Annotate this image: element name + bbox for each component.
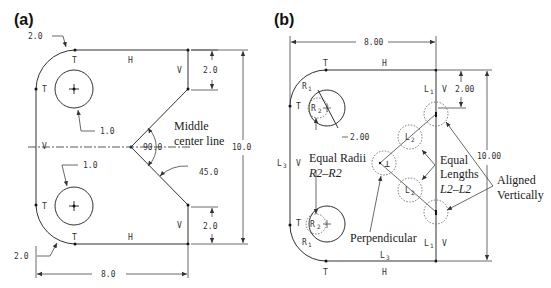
diagram-canvas: (a) T H	[0, 0, 551, 288]
svg-text:V: V	[442, 239, 447, 248]
svg-text:center line: center line	[174, 134, 224, 148]
svg-text:3: 3	[283, 162, 287, 169]
svg-text:Equal: Equal	[440, 153, 469, 167]
svg-text:L: L	[424, 85, 429, 94]
panel-a-lower-angle-dim: 45.0	[160, 166, 218, 177]
svg-text:L: L	[424, 239, 429, 248]
panel-b-label: (b)	[274, 11, 294, 28]
svg-text:Perpendicular: Perpendicular	[350, 231, 417, 245]
svg-text:T: T	[72, 233, 77, 242]
svg-text:2: 2	[317, 223, 321, 230]
svg-text:L: L	[380, 251, 385, 260]
panel-a-bottom-hole-dim: 1.0	[62, 161, 98, 186]
svg-text:2.0: 2.0	[203, 222, 218, 231]
svg-text:Vertically: Vertically	[497, 188, 544, 202]
svg-text:2: 2	[318, 107, 322, 114]
panel-a-top-offset-dim: 2.0	[191, 50, 218, 90]
svg-text:Equal Radii: Equal Radii	[309, 151, 367, 165]
svg-text:R: R	[310, 220, 315, 229]
svg-text:V: V	[442, 85, 447, 94]
panel-b-top-circles: R 2	[308, 90, 345, 128]
panel-b-right-chain: L 2 L 2 ⊥	[372, 102, 448, 224]
svg-text:90.0: 90.0	[143, 143, 162, 152]
svg-text:1: 1	[308, 85, 312, 92]
svg-text:3: 3	[386, 254, 390, 261]
svg-text:V: V	[42, 142, 47, 151]
svg-text:H: H	[382, 268, 387, 277]
svg-text:T: T	[72, 56, 77, 65]
svg-text:H: H	[128, 233, 133, 242]
panel-b: (b) R 2 R 2	[274, 11, 544, 277]
svg-text:V: V	[177, 221, 182, 230]
panel-b-circle-dim: 2.00	[342, 133, 369, 142]
svg-text:T: T	[323, 268, 328, 277]
panel-b-equal-lengths-note: Equal Lengths L2–L2	[422, 150, 479, 196]
svg-text:1: 1	[430, 88, 434, 95]
svg-text:T: T	[296, 102, 301, 111]
svg-text:1: 1	[430, 242, 434, 249]
svg-text:L: L	[405, 186, 410, 195]
svg-text:2.0: 2.0	[14, 252, 29, 261]
svg-text:2.0: 2.0	[203, 66, 218, 75]
panel-a-center-line-annotation: Middle center line	[174, 119, 224, 148]
svg-text:V: V	[296, 159, 301, 168]
panel-a-label: (a)	[14, 11, 34, 28]
svg-text:10.0: 10.0	[232, 143, 251, 152]
panel-a-v-angle-dim: 90.0	[143, 128, 162, 166]
svg-text:Aligned: Aligned	[497, 173, 536, 187]
panel-a-bottom-offset-dim: 2.0	[191, 207, 248, 244]
svg-text:R: R	[302, 238, 307, 247]
svg-text:H: H	[382, 59, 387, 68]
svg-text:Lengths: Lengths	[440, 167, 479, 181]
svg-text:1: 1	[308, 241, 312, 248]
svg-text:45.0: 45.0	[199, 168, 218, 177]
svg-text:T: T	[42, 202, 47, 211]
svg-text:R: R	[311, 104, 316, 113]
svg-text:⊥: ⊥	[384, 158, 390, 169]
svg-text:Middle: Middle	[174, 119, 209, 133]
panel-a-bottom-hole	[55, 187, 93, 225]
svg-text:2: 2	[411, 189, 415, 196]
svg-text:T: T	[323, 59, 328, 68]
panel-a-top-hole-dim: 1.0	[78, 110, 115, 136]
panel-a: (a) T H	[14, 11, 251, 279]
svg-text:2.0: 2.0	[28, 32, 43, 41]
panel-a-top-fillet-dim: 2.0	[28, 32, 66, 47]
svg-text:R2–R2: R2–R2	[308, 166, 342, 180]
svg-text:10.00: 10.00	[477, 152, 501, 161]
svg-text:T: T	[42, 85, 47, 94]
panel-a-width-dim: 8.0	[36, 246, 188, 279]
svg-text:8.0: 8.0	[101, 270, 116, 279]
panel-a-top-hole	[55, 70, 93, 108]
svg-text:L: L	[405, 133, 410, 142]
svg-text:2: 2	[411, 136, 415, 143]
svg-text:L2–L2: L2–L2	[439, 182, 471, 196]
panel-b-bottom-circles: R 2	[306, 206, 345, 242]
svg-text:1.0: 1.0	[83, 161, 98, 170]
svg-text:1.0: 1.0	[100, 127, 115, 136]
panel-a-bottom-fillet-dim: 2.0	[14, 243, 57, 261]
svg-text:2.00: 2.00	[350, 133, 369, 142]
svg-text:2.00: 2.00	[455, 85, 474, 94]
svg-text:L: L	[277, 159, 282, 168]
svg-text:T: T	[296, 219, 301, 228]
svg-text:H: H	[128, 56, 133, 65]
svg-text:R: R	[302, 82, 307, 91]
svg-text:8.00: 8.00	[364, 38, 383, 47]
svg-text:V: V	[177, 66, 182, 75]
